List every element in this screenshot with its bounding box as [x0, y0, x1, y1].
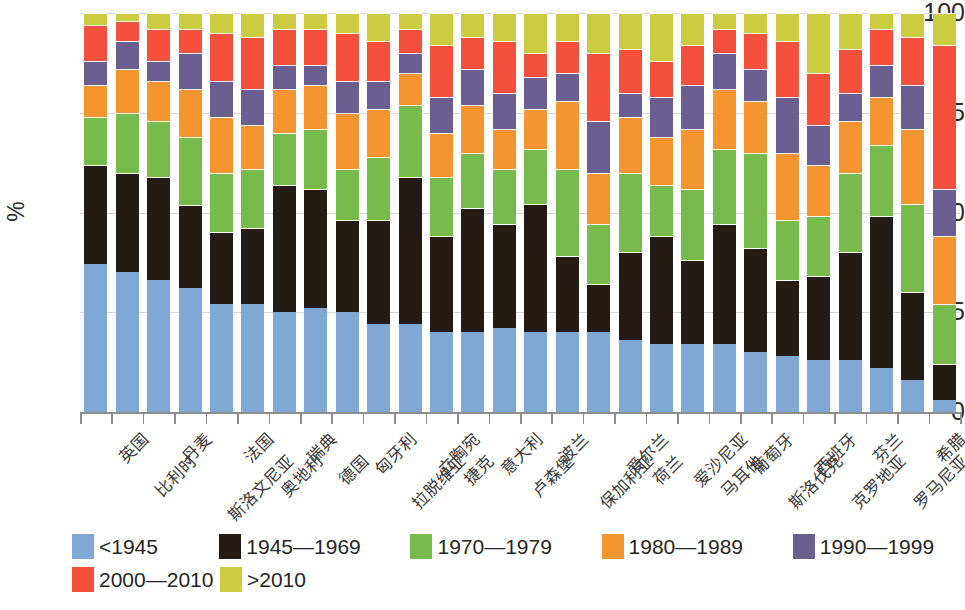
bar-segment — [493, 224, 516, 328]
bar-stack — [147, 13, 170, 412]
bar-segment — [776, 220, 799, 280]
bar-stack — [807, 13, 830, 412]
bar-segment — [147, 121, 170, 177]
bar-segment — [84, 117, 107, 165]
bar-stack — [839, 13, 862, 412]
bar-segment — [336, 33, 359, 81]
bar-segment — [744, 13, 767, 33]
x-tick — [80, 412, 82, 424]
x-tick — [174, 412, 176, 424]
bar-segment — [179, 288, 202, 412]
bar-segment — [556, 332, 579, 412]
x-tick — [771, 412, 773, 424]
x-tick — [614, 412, 616, 424]
chart-legend: <19451945—19691970—19791980—19891990—199… — [72, 530, 952, 596]
bar-segment — [367, 13, 390, 41]
legend-item[interactable]: 1980—1989 — [602, 530, 793, 563]
x-tick — [834, 412, 836, 424]
bar-stack — [493, 13, 516, 412]
bar-segment — [399, 177, 422, 325]
x-tick — [929, 412, 931, 424]
bar-segment — [744, 153, 767, 249]
legend-item[interactable]: 1970—1979 — [410, 530, 601, 563]
bar-segment — [461, 105, 484, 153]
bar-stack — [304, 13, 327, 412]
bar-segment — [901, 13, 924, 37]
legend-color-swatch — [602, 534, 624, 559]
bar-segment — [619, 340, 642, 412]
bar-segment — [524, 149, 547, 205]
bar-segment — [587, 284, 610, 332]
x-tick — [269, 412, 271, 424]
bar-segment — [587, 121, 610, 173]
bar-segment — [744, 248, 767, 352]
bar-segment — [147, 61, 170, 81]
bar-segment — [241, 37, 264, 89]
bar-segment — [336, 312, 359, 412]
bar-segment — [493, 129, 516, 169]
bar-stack — [399, 13, 422, 412]
bar-segment — [241, 228, 264, 304]
x-tick — [426, 412, 428, 424]
bar-segment — [933, 400, 956, 412]
x-tick-label: 意大利 — [498, 430, 546, 478]
x-tick — [583, 412, 585, 424]
x-tick-label: 罗马尼亚 — [911, 452, 965, 512]
legend-item[interactable]: 1945—1969 — [219, 530, 410, 563]
bar-segment — [304, 85, 327, 129]
bar-segment — [461, 37, 484, 69]
bar-segment — [273, 29, 296, 65]
bar-segment — [179, 53, 202, 89]
x-tick — [740, 412, 742, 424]
x-tick — [111, 412, 113, 424]
bar-segment — [933, 236, 956, 304]
bar-stack — [84, 13, 107, 412]
bar-segment — [430, 177, 453, 237]
bar-segment — [304, 13, 327, 29]
bar-segment — [807, 165, 830, 217]
x-tick — [803, 412, 805, 424]
bar-stack — [650, 13, 673, 412]
bar-segment — [304, 308, 327, 412]
bar-segment — [336, 220, 359, 312]
bar-segment — [210, 232, 233, 304]
bar-segment — [870, 216, 893, 368]
legend-item[interactable]: <1945 — [72, 530, 219, 563]
bar-segment — [776, 13, 799, 41]
bar-segment — [241, 304, 264, 412]
bar-segment — [901, 37, 924, 85]
legend-item-label: 1980—1989 — [629, 535, 743, 559]
bar-segment — [399, 105, 422, 177]
bar-segment — [619, 173, 642, 253]
bar-segment — [744, 101, 767, 153]
bar-segment — [650, 13, 673, 61]
bar-segment — [839, 252, 862, 360]
bar-segment — [399, 29, 422, 53]
bar-segment — [367, 220, 390, 324]
bar-segment — [650, 185, 673, 237]
bar-segment — [587, 332, 610, 412]
legend-item[interactable]: 2000—2010 — [72, 563, 220, 596]
bar-segment — [901, 292, 924, 380]
bar-segment — [116, 272, 139, 412]
bar-segment — [399, 73, 422, 105]
bar-segment — [273, 133, 296, 185]
bar-segment — [367, 157, 390, 221]
bar-segment — [901, 204, 924, 292]
bar-segment — [273, 89, 296, 133]
legend-color-swatch — [72, 567, 94, 592]
bar-segment — [179, 205, 202, 289]
bar-segment — [461, 13, 484, 37]
bar-segment — [179, 13, 202, 29]
legend-item[interactable]: >2010 — [220, 563, 420, 596]
legend-item[interactable]: 1990—1999 — [793, 530, 952, 563]
bar-segment — [807, 360, 830, 412]
bar-segment — [619, 13, 642, 49]
bar-segment — [807, 125, 830, 165]
bar-segment — [524, 109, 547, 149]
bar-segment — [776, 356, 799, 412]
bar-segment — [116, 21, 139, 41]
bar-segment — [587, 173, 610, 225]
bar-segment — [273, 185, 296, 313]
bar-segment — [713, 13, 736, 29]
